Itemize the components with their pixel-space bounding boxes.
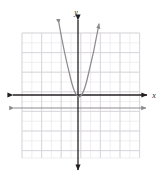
coordinate-plane-figure: y x — [0, 0, 164, 177]
x-axis-label: x — [151, 91, 156, 100]
y-axis-label: y — [73, 8, 78, 17]
parabola-curve — [59, 24, 99, 97]
graph-canvas: y x — [0, 0, 164, 177]
